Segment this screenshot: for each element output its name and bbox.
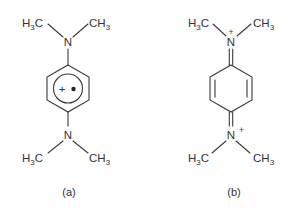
nitrogen-top: N	[64, 36, 72, 48]
bond-n-methyl-top-right	[237, 24, 251, 36]
structure-a: H3C CH3 N + N H3C CH3 (a)	[22, 17, 111, 198]
nitrogen-bottom: N	[64, 129, 72, 141]
caption-a: (a)	[62, 186, 75, 198]
methyl-label-bottom-left: H3C	[188, 152, 209, 167]
nitrogen-bottom: N	[227, 129, 235, 141]
methyl-label-bottom-right: CH3	[89, 152, 111, 167]
methyl-label-bottom-left: H3C	[22, 152, 43, 167]
bond-n-methyl-bottom-left	[212, 141, 226, 153]
bond-n-methyl-bottom-right	[73, 141, 88, 153]
methyl-label-top-right: CH3	[253, 17, 275, 32]
bond-n-methyl-bottom-right	[236, 141, 250, 153]
methyl-label-top-left: H3C	[188, 17, 209, 32]
quinoid-ring	[210, 65, 252, 112]
structure-svg: H3C CH3 N + N H3C CH3 (a) H3C CH3 +	[0, 0, 295, 210]
bond-n-methyl-top-left	[48, 24, 63, 37]
bond-n-methyl-bottom-left	[48, 141, 63, 153]
chemical-structure-figure: H3C CH3 N + N H3C CH3 (a) H3C CH3 +	[0, 0, 295, 210]
methyl-label-bottom-right: CH3	[253, 152, 275, 167]
radical-dot-icon	[71, 87, 75, 91]
plus-charge-symbol: +	[59, 83, 66, 95]
methyl-label-top-right: CH3	[89, 17, 111, 32]
nitrogen-top: N	[227, 36, 235, 48]
caption-b: (b)	[227, 186, 240, 198]
bond-n-methyl-top-left	[213, 24, 226, 36]
positive-charge-bottom: +	[239, 125, 244, 135]
bond-n-methyl-top-right	[73, 24, 88, 37]
structure-b: H3C CH3 + N N + H3C CH3 (b)	[188, 17, 275, 198]
methyl-label-top-left: H3C	[22, 17, 43, 32]
